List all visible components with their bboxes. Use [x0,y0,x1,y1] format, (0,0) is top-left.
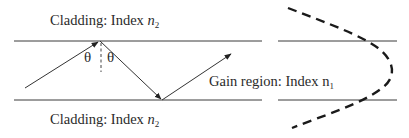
theta-left-label: θ [84,50,91,65]
theta-right-label: θ [107,50,114,65]
cladding-top-label: Cladding: Index n2 [50,13,159,30]
gain-region-label: Gain region: Index n1 [209,74,334,91]
mode-profile-dashed-curve [288,8,392,128]
cladding-bottom-label: Cladding: Index n2 [50,112,159,129]
waveguide-diagram: Cladding: Index n2 θ θ Gain region: Inde… [0,0,409,138]
